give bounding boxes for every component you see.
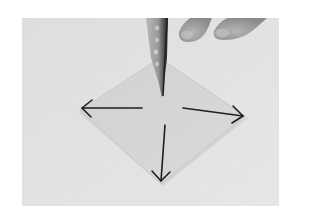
knuckle-highlight [155,38,159,42]
knuckle-highlight [154,50,159,55]
photo-illustration [22,18,279,206]
knuckle-highlight [155,62,159,66]
origami-instruction-photo [22,18,279,206]
knuckle-highlight [155,26,159,30]
fingernail-1 [181,31,193,40]
fingernail-2 [215,29,229,38]
